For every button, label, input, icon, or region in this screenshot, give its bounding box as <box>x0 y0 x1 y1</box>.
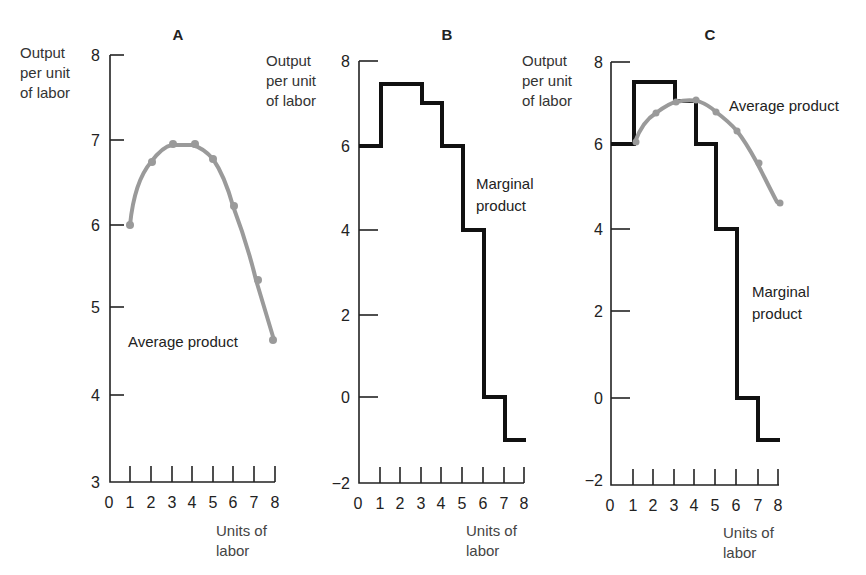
figure-canvas: A Output per unit of labor 8 7 6 5 4 3 <box>0 0 866 575</box>
x-axis-label-a-line2: labor <box>216 542 249 559</box>
average-product-points-a <box>126 140 277 344</box>
svg-text:7: 7 <box>91 132 100 149</box>
svg-text:3: 3 <box>670 497 679 514</box>
marginal-product-label-b-line2: product <box>476 197 527 214</box>
svg-text:5: 5 <box>209 494 218 511</box>
svg-text:5: 5 <box>458 495 467 512</box>
svg-text:8: 8 <box>774 497 783 514</box>
svg-text:1: 1 <box>376 495 385 512</box>
svg-text:3: 3 <box>168 494 177 511</box>
y-ticks-a <box>110 55 124 395</box>
svg-text:5: 5 <box>711 497 720 514</box>
y-tick-labels-c: 8 6 4 2 0 −2 <box>585 54 603 489</box>
svg-text:8: 8 <box>91 47 100 64</box>
svg-text:2: 2 <box>649 497 658 514</box>
svg-text:8: 8 <box>271 494 280 511</box>
svg-text:7: 7 <box>754 497 763 514</box>
marginal-product-step-b <box>359 84 526 440</box>
svg-text:6: 6 <box>341 138 350 155</box>
svg-text:0: 0 <box>105 494 114 511</box>
svg-text:4: 4 <box>91 387 100 404</box>
x-axis-label-c-line1: Units of <box>723 524 775 541</box>
svg-text:1: 1 <box>126 494 135 511</box>
svg-text:−2: −2 <box>585 472 603 489</box>
y-axis-label-c-line1: Output <box>522 52 568 69</box>
svg-text:2: 2 <box>147 494 156 511</box>
panel-a: A Output per unit of labor 8 7 6 5 4 3 <box>20 26 280 559</box>
x-axis-label-a-line1: Units of <box>216 522 268 539</box>
panel-title-a: A <box>173 26 184 43</box>
y-ticks-b <box>359 61 378 397</box>
x-tick-labels-b: 0 1 2 3 4 5 6 7 8 <box>354 495 529 512</box>
svg-text:3: 3 <box>417 495 426 512</box>
y-ticks-c <box>611 62 630 398</box>
svg-text:8: 8 <box>520 495 529 512</box>
panel-c: C Output per unit of labor 8 6 4 2 0 −2 <box>522 26 840 561</box>
svg-text:−2: −2 <box>332 475 350 492</box>
y-axis-label-a-line3: of labor <box>20 84 70 101</box>
y-axis-label-c-line2: per unit <box>522 72 573 89</box>
x-ticks-a <box>130 466 275 482</box>
marginal-product-label-c-line1: Marginal <box>752 283 810 300</box>
svg-text:4: 4 <box>437 495 446 512</box>
marginal-product-label-c-line2: product <box>752 305 803 322</box>
svg-text:3: 3 <box>91 474 100 491</box>
x-axis-label-b-line1: Units of <box>466 522 518 539</box>
svg-text:4: 4 <box>188 494 197 511</box>
svg-text:2: 2 <box>594 303 603 320</box>
y-axis-label-a-line1: Output <box>20 44 66 61</box>
y-tick-labels-a: 8 7 6 5 4 3 <box>91 47 100 491</box>
average-product-label-a: Average product <box>128 333 239 350</box>
axes-a <box>110 55 275 482</box>
y-tick-labels-b: 8 6 4 2 0 −2 <box>332 53 350 492</box>
svg-text:1: 1 <box>629 497 638 514</box>
svg-text:8: 8 <box>341 53 350 70</box>
x-tick-labels-a: 0 1 2 3 4 5 6 7 8 <box>105 494 280 511</box>
y-axis-label-c-line3: of labor <box>522 92 572 109</box>
svg-text:4: 4 <box>341 222 350 239</box>
svg-text:7: 7 <box>250 494 259 511</box>
svg-text:4: 4 <box>690 497 699 514</box>
svg-text:0: 0 <box>341 389 350 406</box>
panel-title-b: B <box>442 26 453 43</box>
x-tick-labels-c: 0 1 2 3 4 5 6 7 8 <box>606 497 783 514</box>
svg-text:6: 6 <box>229 494 238 511</box>
svg-text:7: 7 <box>500 495 509 512</box>
y-axis-label-a-line2: per unit <box>20 64 71 81</box>
svg-text:5: 5 <box>91 299 100 316</box>
svg-text:2: 2 <box>341 307 350 324</box>
x-ticks-b <box>380 467 524 483</box>
svg-text:2: 2 <box>396 495 405 512</box>
average-product-label-c: Average product <box>729 97 840 114</box>
svg-text:0: 0 <box>594 390 603 407</box>
y-axis-label-b-line1: Output <box>266 52 312 69</box>
svg-text:0: 0 <box>354 495 363 512</box>
marginal-product-label-b-line1: Marginal <box>476 175 534 192</box>
y-axis-label-b-line2: per unit <box>266 72 317 89</box>
x-ticks-c <box>633 469 778 485</box>
svg-text:8: 8 <box>594 54 603 71</box>
x-axis-label-b-line2: labor <box>466 542 499 559</box>
y-axis-label-b-line3: of labor <box>266 92 316 109</box>
x-axis-label-c-line2: labor <box>723 544 756 561</box>
average-product-curve-a <box>130 145 274 340</box>
svg-text:4: 4 <box>594 221 603 238</box>
svg-text:6: 6 <box>594 136 603 153</box>
svg-text:6: 6 <box>91 217 100 234</box>
panel-title-c: C <box>705 26 716 43</box>
svg-text:0: 0 <box>606 497 615 514</box>
svg-text:6: 6 <box>732 497 741 514</box>
svg-text:6: 6 <box>479 495 488 512</box>
panel-b: B Output per unit of labor 8 6 4 2 0 −2 <box>266 26 534 559</box>
